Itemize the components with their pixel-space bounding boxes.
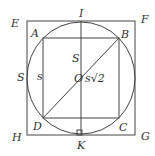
label-a: A <box>30 27 39 40</box>
geometry-diagram: E F G H A B C D I K O S s S s√2 <box>0 0 155 156</box>
label-b: B <box>120 28 129 41</box>
label-inner-side: s <box>37 70 43 83</box>
label-o: O <box>74 72 83 85</box>
label-g: G <box>141 130 150 143</box>
label-h: H <box>11 131 22 144</box>
label-diagonal: s√2 <box>85 72 105 85</box>
label-e: E <box>10 17 19 30</box>
label-outer-side: S <box>17 71 25 84</box>
label-f: F <box>140 13 149 26</box>
label-d: D <box>32 120 42 133</box>
label-c: C <box>119 121 128 134</box>
label-half-side: S <box>72 52 80 65</box>
label-i: I <box>78 7 84 20</box>
label-k: K <box>76 139 86 152</box>
